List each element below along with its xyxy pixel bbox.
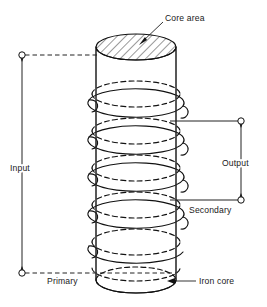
label-output: Output [222, 158, 249, 168]
iron-core-arrowhead [167, 278, 175, 284]
output-circuit: Output Output Secondary [170, 118, 249, 215]
input-circuit: Input Input Primary [10, 52, 176, 286]
primary-turn-1 [92, 94, 180, 107]
secondary-turn-4 [88, 200, 184, 228]
input-terminal-bottom[interactable] [19, 270, 25, 276]
primary-turn-3 [92, 168, 180, 181]
hatched-ellipse [96, 34, 176, 60]
label-iron-core: Iron core [199, 276, 234, 286]
primary-turn-6 [92, 268, 180, 281]
output-terminal-top[interactable] [238, 118, 244, 124]
cylinder-bottom-front-edge [96, 280, 176, 293]
primary-winding [92, 81, 180, 281]
secondary-winding [88, 89, 188, 263]
transformer-diagram: Core area Input Input Primary [0, 0, 267, 307]
input-terminal-top[interactable] [19, 52, 25, 58]
secondary-turn-3 [88, 163, 184, 191]
label-primary: Primary [47, 276, 78, 286]
output-terminal-bottom[interactable] [238, 197, 244, 203]
primary-turn-5 [92, 242, 180, 255]
label-input: Input [10, 163, 30, 173]
primary-turn-4 [92, 205, 180, 218]
primary-turn-5-back [92, 229, 180, 242]
secondary-turn-5 [88, 246, 183, 263]
secondary-turn-2 [88, 126, 184, 154]
secondary-turn-1 [88, 89, 184, 117]
primary-turn-2 [92, 131, 180, 144]
diagram-canvas: Core area Input Input Primary [0, 0, 267, 307]
iron-core-callout: Iron core [167, 276, 234, 286]
label-secondary: Secondary [189, 205, 232, 215]
label-core-area: Core area [165, 13, 205, 23]
core-area-top-face [96, 34, 176, 60]
